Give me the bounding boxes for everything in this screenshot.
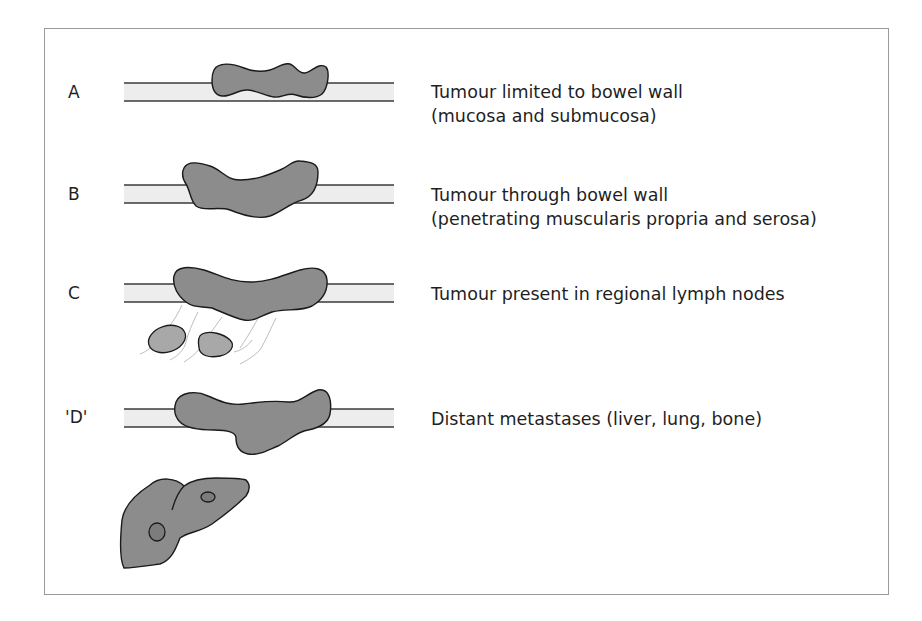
lymph-node-1 xyxy=(145,321,189,357)
stage-a-description-line-1: Tumour limited to bowel wall xyxy=(431,80,683,104)
stage-label-c: C xyxy=(68,283,80,303)
liver-with-metastases xyxy=(121,478,249,568)
lymph-node-2 xyxy=(198,332,232,356)
tumour-d xyxy=(175,390,331,455)
stage-label-d: 'D' xyxy=(65,407,87,427)
stage-b-description-line-1: Tumour through bowel wall xyxy=(431,183,817,207)
stage-b-description-line-2: (penetrating muscularis propria and sero… xyxy=(431,207,817,231)
tumour-b xyxy=(183,161,318,217)
stage-a-description: Tumour limited to bowel wall (mucosa and… xyxy=(431,80,683,128)
tumour-a xyxy=(212,64,328,98)
stage-d-description-line-1: Distant metastases (liver, lung, bone) xyxy=(431,407,762,431)
metastasis-1 xyxy=(201,492,215,502)
tumour-c xyxy=(174,268,327,321)
stage-d-description: Distant metastases (liver, lung, bone) xyxy=(431,407,762,431)
metastasis-2 xyxy=(149,523,165,541)
stage-label-a: A xyxy=(68,82,80,102)
stage-c-description: Tumour present in regional lymph nodes xyxy=(431,282,785,306)
stage-label-b: B xyxy=(68,184,80,204)
stage-b-description: Tumour through bowel wall (penetrating m… xyxy=(431,183,817,231)
stage-a-description-line-2: (mucosa and submucosa) xyxy=(431,104,683,128)
stage-c-description-line-1: Tumour present in regional lymph nodes xyxy=(431,282,785,306)
